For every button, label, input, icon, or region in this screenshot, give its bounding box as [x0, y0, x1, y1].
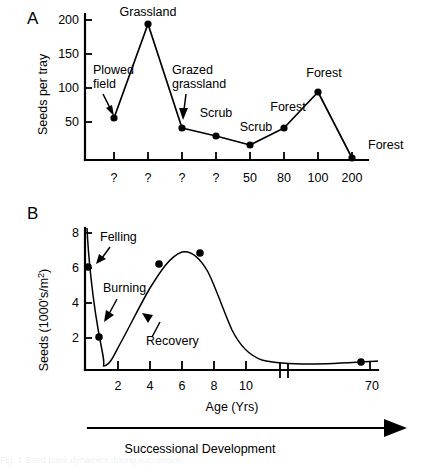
data-point — [95, 333, 103, 341]
panel-b-ylabel-main: Seeds (1000's/m — [37, 278, 51, 371]
annotation-scrub-1-label: Scrub — [200, 106, 233, 120]
succession-label: Successional Development — [125, 442, 276, 456]
arrow-icon — [106, 105, 114, 116]
panel-b-ytick-4: 4 — [72, 296, 79, 310]
data-point — [144, 20, 151, 27]
panel-a-ylabel: Seeds per tray — [36, 53, 50, 135]
data-point — [246, 141, 253, 148]
annotation-grazed-grassland-line2: grassland — [172, 77, 226, 91]
annotation-forest-1-label: Forest — [270, 100, 306, 114]
annotation-recovery: Recovery — [142, 313, 200, 348]
annotation-scrub-2: Scrub — [240, 120, 273, 134]
annotation-forest-3-label: Forest — [368, 138, 404, 152]
annotation-plowed-field-line1: Plowed — [93, 63, 134, 77]
panel-b-ytick-2: 2 — [72, 331, 79, 345]
panel-a-xtick-3: ? — [213, 171, 220, 185]
panel-b-ytick-6: 6 — [72, 261, 79, 275]
succession-arrow-group: Successional Development — [88, 419, 407, 456]
annotation-grazed-grassland-line1: Grazed — [172, 63, 213, 77]
annotation-scrub-1: Scrub — [200, 106, 233, 120]
annotation-forest-2: Forest — [306, 66, 342, 80]
figure-container: A Seeds per tray 50 100 150 200 — [0, 0, 425, 472]
panel-a-letter: A — [27, 9, 39, 28]
data-point — [84, 263, 92, 271]
panel-b-data-points — [84, 249, 365, 366]
panel-b-xtick-8: 8 — [211, 379, 218, 393]
panel-b-xlabel: Age (Yrs) — [206, 400, 259, 414]
panel-a-ytick-50: 50 — [65, 115, 79, 129]
annotation-plowed-field: Plowed field — [93, 63, 134, 116]
panel-a-xtick-5: 80 — [277, 171, 291, 185]
panel-b-ytick-8: 8 — [72, 226, 79, 240]
figure-svg: A Seeds per tray 50 100 150 200 — [0, 0, 425, 472]
data-point — [357, 358, 365, 366]
annotation-recovery-label: Recovery — [146, 334, 200, 348]
svg-text:Seeds (1000's/m2): Seeds (1000's/m2) — [36, 269, 51, 372]
arrow-icon — [142, 313, 153, 323]
data-point — [110, 114, 117, 121]
data-point — [212, 132, 219, 139]
annotation-burning-label: Burning — [103, 281, 146, 295]
panel-a-xtick-7: 200 — [342, 171, 363, 185]
panel-b-xtick-2: 2 — [115, 379, 122, 393]
data-point — [348, 154, 355, 161]
arrow-icon — [179, 108, 188, 120]
bottom-caption-ghost: Fig. 1 Seed bank dynamics during success… — [0, 455, 425, 472]
arrow-icon — [104, 310, 114, 322]
panel-b-xtick-4: 4 — [147, 379, 154, 393]
annotation-grassland-label: Grassland — [120, 5, 177, 19]
annotation-felling-label: Felling — [100, 230, 137, 244]
annotation-forest-2-label: Forest — [306, 66, 342, 80]
panel-b-ylabel-group: Seeds (1000's/m2) — [36, 269, 51, 372]
panel-a-ytick-200: 200 — [58, 13, 79, 27]
panel-a-xtick-0: ? — [111, 171, 118, 185]
panel-b-ylabel-close: ) — [37, 269, 51, 273]
panel-a: A Seeds per tray 50 100 150 200 — [27, 5, 404, 185]
data-point — [196, 249, 204, 257]
annotation-grazed-grassland-leader — [184, 94, 186, 110]
panel-a-xtick-1: ? — [145, 171, 152, 185]
annotation-scrub-2-label: Scrub — [240, 120, 273, 134]
annotation-felling: Felling — [96, 230, 137, 264]
panel-a-xtick-6: 100 — [308, 171, 329, 185]
annotation-felling-leader — [102, 247, 110, 258]
data-point — [314, 88, 321, 95]
panel-a-ytick-100: 100 — [58, 81, 79, 95]
panel-b-xtick-10: 10 — [239, 379, 253, 393]
annotation-plowed-field-line2: field — [93, 77, 116, 91]
panel-b-x-ticks — [118, 361, 370, 370]
annotation-burning: Burning — [103, 281, 146, 322]
panel-b-curve — [87, 228, 378, 366]
data-point — [155, 260, 163, 268]
annotation-forest-3: Forest — [368, 138, 404, 152]
data-point — [280, 124, 287, 131]
panel-b-xtick-6: 6 — [179, 379, 186, 393]
annotation-grassland: Grassland — [120, 5, 177, 19]
panel-b-xtick-70: 70 — [365, 379, 379, 393]
panel-a-xtick-4: 50 — [243, 171, 257, 185]
panel-b: B Seeds (1000's/m2) 2 4 6 8 — [27, 204, 379, 414]
annotation-forest-1: Forest — [270, 100, 306, 114]
panel-a-x-ticks — [114, 152, 352, 160]
panel-b-letter: B — [27, 204, 38, 223]
annotation-burning-leader — [109, 299, 117, 314]
panel-a-ytick-150: 150 — [58, 47, 79, 61]
panel-a-xtick-2: ? — [179, 171, 186, 185]
arrow-icon — [384, 419, 407, 437]
data-point — [178, 124, 185, 131]
